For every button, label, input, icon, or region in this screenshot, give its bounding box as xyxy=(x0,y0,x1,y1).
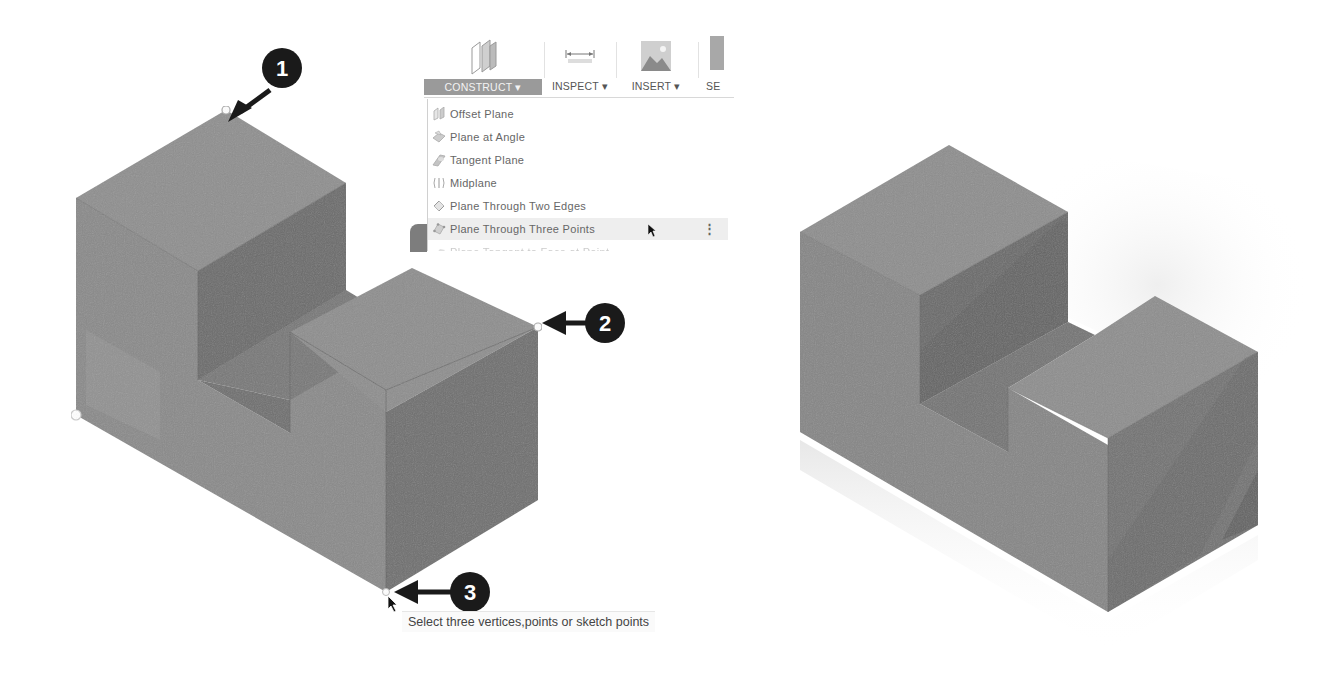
callout-2: 2 xyxy=(542,303,625,343)
plane-tangent-face-icon xyxy=(432,245,446,251)
tangent-plane-icon xyxy=(432,153,446,167)
more-options-icon[interactable]: ⋮ xyxy=(703,218,716,240)
callout-1: 1 xyxy=(228,48,302,122)
svg-text:2: 2 xyxy=(599,311,611,336)
toolbar-separator xyxy=(544,42,545,78)
midplane-icon xyxy=(432,176,446,190)
menu-item-plane-three-points[interactable]: Plane Through Three Points ⋮ xyxy=(428,218,728,240)
offset-plane-icon xyxy=(432,107,446,121)
vertex-marker-1[interactable] xyxy=(222,106,230,114)
construct-planes-icon xyxy=(468,38,498,76)
mouse-cursor-icon xyxy=(388,596,397,612)
toolbar: CONSTRUCT ▾ INSPECT ▾ xyxy=(424,36,734,98)
menu-item-offset-plane[interactable]: Offset Plane xyxy=(428,103,728,125)
plane-two-edges-icon xyxy=(432,199,446,213)
svg-text:3: 3 xyxy=(464,580,476,605)
toolbar-insert[interactable]: INSERT ▾ xyxy=(618,36,694,98)
toolbar-construct[interactable]: CONSTRUCT ▾ xyxy=(424,36,542,98)
model-fragment xyxy=(410,224,427,252)
menu-item-midplane[interactable]: Midplane xyxy=(428,172,728,194)
menu-item-tangent-plane[interactable]: Tangent Plane xyxy=(428,149,728,171)
menu-item-plane-two-edges[interactable]: Plane Through Two Edges xyxy=(428,195,728,217)
vertex-marker-2[interactable] xyxy=(534,323,542,331)
construct-dropdown-menu: Offset Plane Plane at Angle Tangent Plan… xyxy=(427,99,734,251)
toolbar-separator xyxy=(698,42,699,78)
vertex-marker-3[interactable] xyxy=(383,589,390,596)
mouse-cursor-icon xyxy=(648,224,658,238)
selection-prompt-tooltip: Select three vertices,points or sketch p… xyxy=(402,611,655,632)
measure-icon xyxy=(564,46,596,66)
canvas: 1 2 3 xyxy=(0,0,1340,682)
toolbar-inspect[interactable]: INSPECT ▾ xyxy=(546,36,614,98)
insert-image-icon xyxy=(640,40,672,72)
menu-item-plane-at-angle[interactable]: Plane at Angle xyxy=(428,126,728,148)
vertex-marker-bottom-left[interactable] xyxy=(71,410,81,420)
toolbar-divider xyxy=(424,97,734,98)
select-icon xyxy=(710,36,724,70)
plane-at-angle-icon xyxy=(432,130,446,144)
plane-three-points-icon xyxy=(432,222,446,236)
menu-item-plane-tangent-face[interactable]: Plane Tangent to Face at Point xyxy=(428,241,728,251)
toolbar-select[interactable]: SE xyxy=(702,36,734,98)
svg-text:1: 1 xyxy=(276,56,288,81)
toolbar-separator xyxy=(616,42,617,78)
